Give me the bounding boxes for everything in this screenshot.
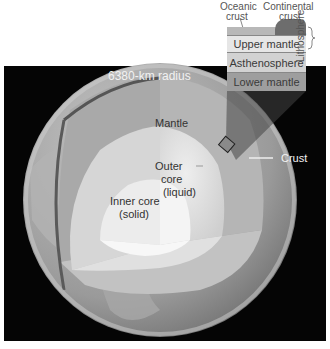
inner-core-label-line1: Inner core <box>110 196 160 207</box>
mantle-label: Mantle <box>155 118 188 129</box>
outer-core-label-line3: (liquid) <box>163 187 196 198</box>
outer-core-label-line1: Outer <box>155 161 183 172</box>
outer-core-label-line2: core <box>161 174 182 185</box>
oceanic-crust-label-line2: crust <box>226 12 248 22</box>
radius-label: 6380-km radius <box>108 70 191 82</box>
lithosphere-label: Lithosphere <box>296 10 306 62</box>
lower-mantle-layer: Lower mantle <box>227 73 306 91</box>
crust-label: Crust <box>281 153 307 164</box>
inner-core-label-line2: (solid) <box>119 209 149 220</box>
